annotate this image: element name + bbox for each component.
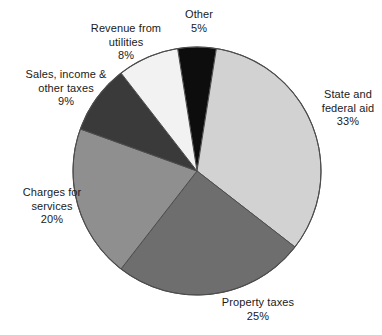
slice-label-state-and-federal-aid-value: 33% bbox=[314, 115, 382, 129]
slice-label-revenue-from-utilities: Revenue from utilities 8% bbox=[78, 22, 174, 63]
slice-label-charges-for-services-name-line2: services bbox=[6, 200, 98, 214]
slice-label-sales-income-other-taxes: Sales, income & other taxes 9% bbox=[12, 68, 120, 109]
slice-label-sales-income-other-taxes-name-line1: Sales, income & bbox=[12, 68, 120, 82]
slice-label-state-and-federal-aid-name-line2: federal aid bbox=[314, 102, 382, 116]
slice-label-state-and-federal-aid-name-line1: State and bbox=[314, 88, 382, 102]
slice-label-revenue-from-utilities-value: 8% bbox=[78, 49, 174, 63]
slice-label-revenue-from-utilities-name-line1: Revenue from bbox=[78, 22, 174, 36]
slice-label-state-and-federal-aid: State and federal aid 33% bbox=[314, 88, 382, 129]
slice-label-other-value: 5% bbox=[170, 22, 228, 36]
slice-label-property-taxes: Property taxes 25% bbox=[206, 296, 310, 323]
slice-label-other: Other 5% bbox=[170, 8, 228, 35]
slice-label-sales-income-other-taxes-value: 9% bbox=[12, 95, 120, 109]
slice-label-charges-for-services-value: 20% bbox=[6, 213, 98, 227]
slice-label-property-taxes-name: Property taxes bbox=[206, 296, 310, 310]
slice-label-charges-for-services-name-line1: Charges for bbox=[6, 186, 98, 200]
slice-label-other-name: Other bbox=[170, 8, 228, 22]
pie-chart-figure: Other 5% State and federal aid 33% Prope… bbox=[0, 0, 382, 335]
slice-label-charges-for-services: Charges for services 20% bbox=[6, 186, 98, 227]
pie-chart-canvas bbox=[0, 0, 382, 335]
slice-label-property-taxes-value: 25% bbox=[206, 310, 310, 324]
slice-label-revenue-from-utilities-name-line2: utilities bbox=[78, 36, 174, 50]
slice-label-sales-income-other-taxes-name-line2: other taxes bbox=[12, 82, 120, 96]
